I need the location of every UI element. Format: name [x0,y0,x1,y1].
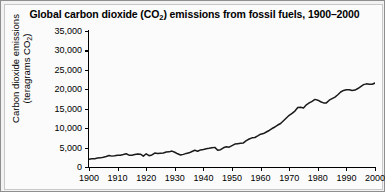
y-tick-label: 15,000 [54,104,82,114]
x-tick-mark [232,167,233,171]
y-tick-label: 20,000 [54,84,82,94]
x-tick-mark [318,167,319,171]
x-tick-mark [146,167,147,171]
x-tick-mark [203,167,204,171]
x-tick-mark [375,167,376,171]
x-tick-label: 2000 [365,173,385,183]
emissions-line-svg [89,31,375,167]
y-tick-label: 5,000 [59,143,82,153]
x-tick-mark [118,167,119,171]
x-tick-mark [175,167,176,171]
y-tick-label: 25,000 [54,65,82,75]
chart-title-text-after: ) emissions from fossil fuels, 1900–2000 [163,8,359,20]
x-tick-mark [346,167,347,171]
chart-title-text-before: Global carbon dioxide (CO [29,8,159,20]
x-tick-label: 1920 [136,173,156,183]
x-tick-label: 1990 [336,173,356,183]
y-tick-label: 0 [77,162,82,172]
x-tick-label: 1980 [308,173,328,183]
x-tick-label: 1940 [193,173,213,183]
y-tick-label: 35,000 [54,26,82,36]
y-tick-label: 10,000 [54,123,82,133]
figure-frame: Global carbon dioxide (CO2) emissions fr… [0,0,385,192]
x-tick-label: 1950 [222,173,242,183]
x-tick-label: 1900 [79,173,99,183]
x-tick-label: 1970 [279,173,299,183]
x-tick-mark [261,167,262,171]
x-tick-label: 1930 [165,173,185,183]
chart-panel: Global carbon dioxide (CO2) emissions fr… [4,4,383,190]
x-tick-label: 1960 [251,173,271,183]
emissions-line-series [89,83,375,159]
y-axis-ticks: 35,00030,00025,00020,00015,00010,0005,00… [5,31,89,167]
y-tick-label: 30,000 [54,45,82,55]
x-tick-mark [289,167,290,171]
x-tick-mark [89,167,90,171]
x-axis-ticks: 1900191019201930194019501960197019801990… [89,167,376,192]
plot-area [89,31,375,167]
x-tick-label: 1910 [108,173,128,183]
chart-title: Global carbon dioxide (CO2) emissions fr… [5,8,384,20]
chart-title-subscript: 2 [159,13,163,22]
